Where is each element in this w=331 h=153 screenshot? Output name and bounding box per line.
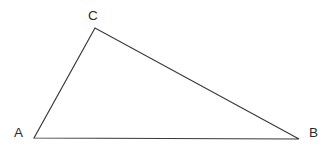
vertex-label-c: C bbox=[88, 9, 98, 23]
vertex-label-a: A bbox=[14, 126, 23, 140]
vertex-label-b: B bbox=[309, 126, 318, 140]
triangle-canvas bbox=[0, 0, 331, 153]
triangle-figure: A B C bbox=[0, 0, 331, 153]
